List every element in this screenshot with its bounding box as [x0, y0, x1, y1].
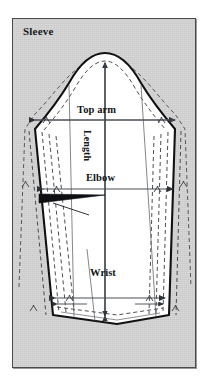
- label-length: Length: [82, 130, 93, 161]
- pattern-drawing: [13, 19, 196, 368]
- page-title: Sleeve: [23, 25, 54, 37]
- sleeve-pattern-panel: Sleeve Top arm Length Elbow Wrist: [12, 18, 196, 368]
- label-wrist: Wrist: [90, 267, 116, 278]
- screenshot-root: Sleeve Top arm Length Elbow Wrist: [0, 0, 209, 386]
- label-top-arm: Top arm: [77, 104, 116, 115]
- label-elbow: Elbow: [86, 172, 115, 183]
